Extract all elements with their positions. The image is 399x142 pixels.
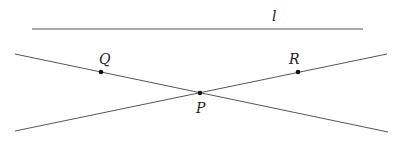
geometry-diagram: l Q R P <box>0 0 399 142</box>
point-p <box>198 91 203 96</box>
point-r <box>296 70 301 75</box>
label-q: Q <box>99 52 110 66</box>
label-r: R <box>289 52 300 66</box>
label-l: l <box>272 9 276 23</box>
point-q <box>99 70 104 75</box>
diagram-svg <box>0 0 399 142</box>
label-p: P <box>196 101 205 115</box>
